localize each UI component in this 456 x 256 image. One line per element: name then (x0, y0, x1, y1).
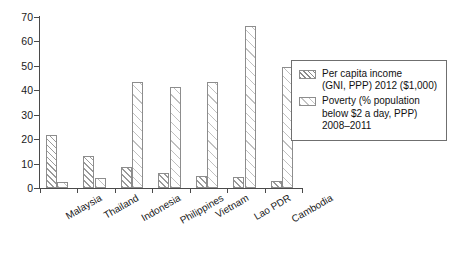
y-tick-label: 40 (5, 85, 33, 96)
plot-area (40, 17, 302, 188)
bar-chart: 010203040506070 MalaysiaThailandIndonesi… (0, 0, 456, 256)
y-tick-label: 50 (5, 61, 33, 72)
legend-swatch-income-icon (299, 70, 316, 79)
x-tick-mark (152, 189, 153, 193)
bar-poverty-lao-pdr (245, 26, 256, 188)
bar-income-cambodia (271, 181, 282, 188)
y-tick-mark (34, 66, 39, 67)
bar-income-malaysia (46, 135, 57, 188)
legend-label-line: (GNI, PPP) 2012 ($1,000) (322, 80, 437, 92)
x-tick-mark (40, 189, 41, 193)
legend-label-line: below $2 a day, PPP) (322, 108, 420, 120)
y-tick-label: 30 (5, 110, 33, 121)
x-axis-label-thailand: Thailand (102, 193, 140, 221)
chart-legend: Per capita income(GNI, PPP) 2012 ($1,000… (291, 60, 447, 141)
legend-item-poverty: Poverty (% populationbelow $2 a day, PPP… (299, 95, 440, 132)
x-tick-mark (115, 189, 116, 193)
legend-swatch-poverty-icon (299, 97, 316, 106)
legend-label-income: Per capita income(GNI, PPP) 2012 ($1,000… (322, 68, 437, 92)
y-tick-mark (34, 164, 39, 165)
x-tick-mark (190, 189, 191, 193)
y-tick-label: 70 (5, 12, 33, 23)
y-tick-mark (34, 41, 39, 42)
x-axis-label-malaysia: Malaysia (65, 193, 104, 221)
legend-label-line: Poverty (% population (322, 95, 420, 107)
bar-income-indonesia (121, 167, 132, 188)
x-axis-line (39, 188, 303, 189)
y-tick-mark (34, 90, 39, 91)
bar-poverty-indonesia (132, 82, 143, 188)
legend-label-line: 2008–2011 (322, 120, 420, 132)
y-tick-label: 20 (5, 134, 33, 145)
x-tick-mark (265, 189, 266, 193)
x-axis-label-lao-pdr: Lao PDR (252, 193, 292, 222)
x-axis-label-indonesia: Indonesia (140, 193, 183, 223)
x-tick-mark (302, 189, 303, 193)
bar-poverty-malaysia (57, 182, 68, 188)
bar-income-lao-pdr (233, 177, 244, 188)
bar-poverty-thailand (95, 178, 106, 188)
bar-poverty-philippines (170, 87, 181, 188)
bar-income-thailand (83, 156, 94, 188)
x-axis-label-cambodia: Cambodia (290, 193, 334, 224)
bar-income-philippines (158, 173, 169, 188)
legend-item-income: Per capita income(GNI, PPP) 2012 ($1,000… (299, 68, 440, 92)
y-tick-mark (34, 139, 39, 140)
legend-label-poverty: Poverty (% populationbelow $2 a day, PPP… (322, 95, 420, 132)
x-tick-mark (77, 189, 78, 193)
bar-poverty-vietnam (207, 82, 218, 188)
legend-label-line: Per capita income (322, 68, 437, 80)
x-tick-mark (227, 189, 228, 193)
y-tick-label: 60 (5, 36, 33, 47)
y-tick-mark (34, 17, 39, 18)
bar-income-vietnam (196, 176, 207, 188)
y-tick-label: 10 (5, 159, 33, 170)
y-tick-label: 0 (5, 183, 33, 194)
y-tick-mark (34, 188, 39, 189)
y-tick-mark (34, 115, 39, 116)
